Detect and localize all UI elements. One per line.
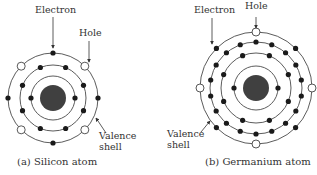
silicon-caption: (a) Silicon atom [17,157,97,167]
electron-dot [269,129,274,134]
electron-dot [283,121,288,126]
hole-circle [252,140,260,148]
hole-circle [17,62,25,70]
electron-dot [63,126,68,131]
hole-circle [81,62,89,70]
electron-dot [293,108,298,113]
electron-dot [293,62,298,67]
germanium-valence-label: Valence [167,129,204,139]
electron-dot [221,72,226,77]
electron-dot [253,131,258,136]
electron-dot [231,85,236,90]
germanium-hole-label: Hole [245,1,268,11]
electron-dot [50,50,55,55]
electron-dot [224,121,229,126]
hole-circle [196,84,204,92]
electron-dot [214,108,219,113]
silicon-atom [5,50,100,145]
electron-dot [275,85,280,90]
electron-dot [253,39,258,44]
electron-dot [81,83,86,88]
electron-dot [299,93,304,98]
hole-circle [81,126,89,134]
germanium-caption: (b) Germanium atom [205,157,311,167]
electron-dot [20,83,25,88]
electron-dot [286,72,291,77]
germanium-electron-label: Electron [194,5,235,15]
electron-dot [221,99,226,104]
silicon-electron-label: Electron [35,5,76,15]
electron-dot [267,53,272,58]
electron-dot [286,99,291,104]
electron-dot [38,65,43,70]
silicon-shell-label: shell [99,142,122,152]
electron-dot [50,140,55,145]
electron-dot [20,108,25,113]
nucleus [40,85,66,111]
atom-diagram: Electron Hole Valence shell (a) Silicon … [0,0,317,175]
electron-dot [240,118,245,123]
electron-dot [269,42,274,47]
electron-dot [28,95,33,100]
electron-dot [224,50,229,55]
electron-dot [81,108,86,113]
electron-dot [293,125,298,130]
atom-diagram-svg [0,0,317,175]
electron-dot [95,95,100,100]
electron-dot [214,46,219,51]
germanium-shell-label: shell [167,140,190,150]
nucleus [243,75,269,101]
hole-circle [252,28,260,36]
electron-dot [267,118,272,123]
electron-dot [208,93,213,98]
electron-dot [283,50,288,55]
hole-circle [17,126,25,134]
germanium-atom [196,28,316,148]
electron-dot [72,95,77,100]
electron-dot [293,46,298,51]
electron-dot [208,77,213,82]
electron-dot [63,65,68,70]
silicon-valence-label: Valence [99,131,136,141]
electron-dot [238,129,243,134]
electron-dot [5,95,10,100]
electron-dot [299,77,304,82]
electron-dot [240,53,245,58]
silicon-hole-label: Hole [79,28,102,38]
hole-circle [308,84,316,92]
electron-dot [38,126,43,131]
electron-dot [214,125,219,130]
electron-dot [214,62,219,67]
electron-dot [238,42,243,47]
